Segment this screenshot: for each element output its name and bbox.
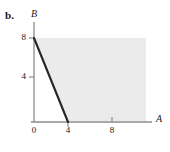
panel-label: b. bbox=[5, 9, 14, 21]
x-tick-label-8: 8 bbox=[106, 125, 118, 135]
y-tick-label-4: 4 bbox=[14, 71, 26, 81]
figure-panel-b: b. B A 8 4 0 4 8 bbox=[0, 0, 170, 152]
y-tick-label-8: 8 bbox=[14, 32, 26, 42]
x-tick-label-4: 4 bbox=[62, 125, 74, 135]
y-axis-label: B bbox=[31, 8, 37, 19]
x-axis-label: A bbox=[156, 113, 162, 124]
x-tick-label-0: 0 bbox=[28, 125, 40, 135]
